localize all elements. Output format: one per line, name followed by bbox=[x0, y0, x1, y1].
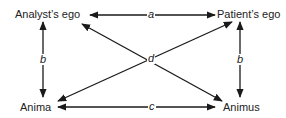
node-anima: Anima bbox=[20, 101, 51, 113]
edge-label-d: d bbox=[147, 53, 155, 64]
edge-d-2 bbox=[58, 22, 232, 101]
edge-label-a: a bbox=[147, 9, 155, 20]
node-patient-ego: Patient’s ego bbox=[217, 8, 280, 20]
edge-label-b-left: b bbox=[39, 54, 47, 65]
edge-label-b-right: b bbox=[236, 54, 244, 65]
node-animus: Animus bbox=[223, 101, 260, 113]
node-analyst-ego: Analyst’s ego bbox=[15, 8, 80, 20]
edge-label-c: c bbox=[148, 101, 156, 112]
